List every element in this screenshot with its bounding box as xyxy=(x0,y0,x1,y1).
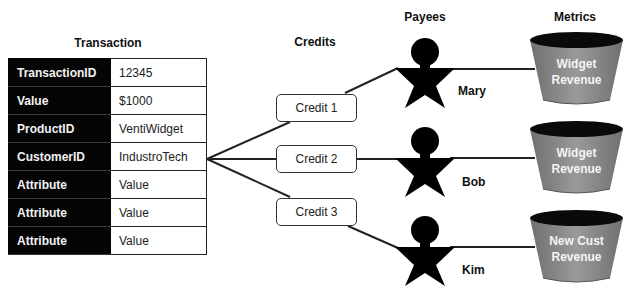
person-star-icon xyxy=(395,127,455,197)
payee-name-bob: Bob xyxy=(462,175,485,189)
connector-line xyxy=(348,226,398,248)
metric-label-3: New Cust Revenue xyxy=(530,233,623,265)
metric-label-line1: Widget xyxy=(530,56,623,72)
metric-label-line2: Revenue xyxy=(530,161,623,177)
payee-name-kim: Kim xyxy=(462,263,485,277)
person-star-icon xyxy=(395,38,455,108)
credit-box-2: Credit 2 xyxy=(276,145,357,173)
credit-box-3: Credit 3 xyxy=(276,198,357,226)
connector-line xyxy=(345,68,398,93)
metric-label-line1: New Cust xyxy=(530,233,623,249)
metric-label-line1: Widget xyxy=(530,145,623,161)
person-star-icon xyxy=(395,216,455,286)
metric-label-2: Widget Revenue xyxy=(530,145,623,177)
payee-name-mary: Mary xyxy=(458,84,486,98)
credit-box-1: Credit 1 xyxy=(276,94,357,122)
metric-label-line2: Revenue xyxy=(530,72,623,88)
metric-label-line2: Revenue xyxy=(530,249,623,265)
metric-label-1: Widget Revenue xyxy=(530,56,623,88)
